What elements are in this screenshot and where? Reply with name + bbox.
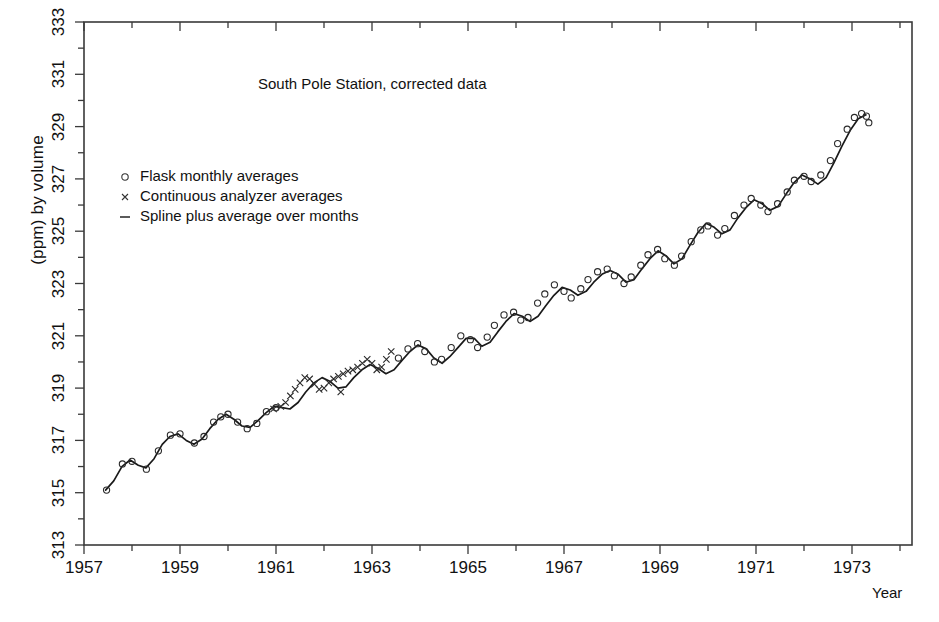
flask-data-point [484,334,490,340]
flask-data-point [611,273,617,279]
flask-data-point [851,114,857,120]
flask-data-point [722,225,728,231]
analyzer-data-point [383,356,389,362]
flask-data-point [835,141,841,147]
flask-data-point [518,317,524,323]
analyzer-data-point [338,389,344,395]
analyzer-data-point [302,374,308,380]
flask-data-point [422,348,428,354]
flask-data-point [638,262,644,268]
flask-data-point [645,252,651,258]
flask-data-point [448,344,454,350]
flask-data-point [405,346,411,352]
flask-data-point [818,172,824,178]
flask-data-point [535,300,541,306]
flask-data-point [395,355,401,361]
analyzer-data-point [388,348,394,354]
flask-data-point [439,356,445,362]
flask-data-point [748,195,754,201]
analyzer-data-point [364,356,370,362]
flask-data-point [715,232,721,238]
flask-data-point [501,312,507,318]
analyzer-data-point [287,393,293,399]
plot-frame [84,22,912,545]
analyzer-data-point [282,399,288,405]
analyzer-data-point [359,360,365,366]
flask-data-point [458,333,464,339]
flask-data-point [431,359,437,365]
spline-series [106,115,866,490]
analyzer-data-point [316,386,322,392]
flask-data-point [551,282,557,288]
flask-data-point [628,274,634,280]
chart-container: (ppm) by volume 313315317319321323325327… [0,0,939,622]
flask-data-point [467,337,473,343]
flask-data-point [578,286,584,292]
flask-data-point [866,120,872,126]
flask-data-point [741,202,747,208]
flask-data-point [662,256,668,262]
flask-data-point [731,212,737,218]
flask-data-point [568,295,574,301]
analyzer-data-point [292,386,298,392]
flask-data-point [844,126,850,132]
flask-data-point [585,276,591,282]
flask-data-point [561,288,567,294]
plot-canvas [0,0,939,622]
flask-data-point [827,158,833,164]
flask-data-point [491,322,497,328]
flask-data-point [595,269,601,275]
flask-data-point [542,291,548,297]
flask-data-point [475,344,481,350]
